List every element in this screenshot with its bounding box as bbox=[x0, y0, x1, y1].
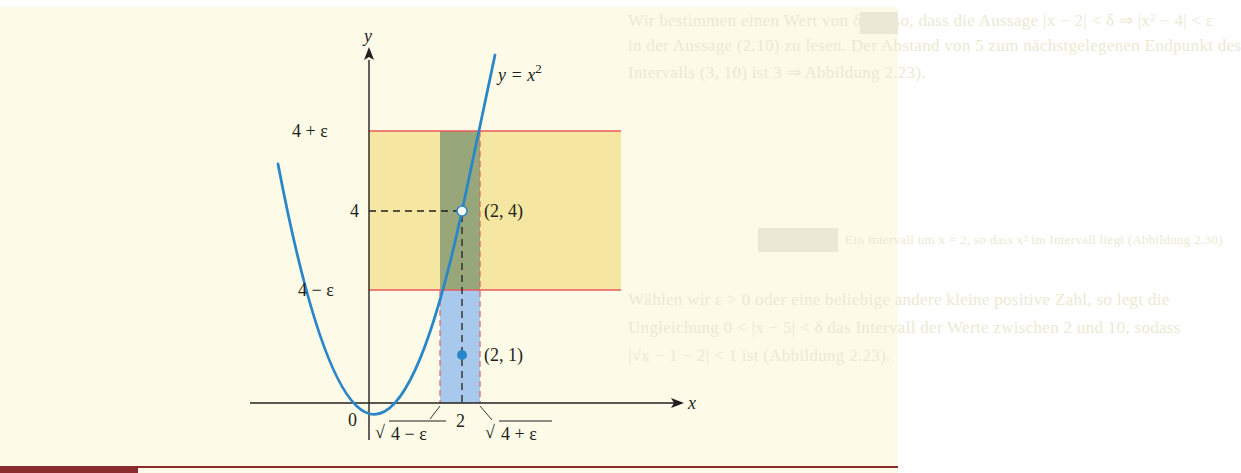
curve-label-exponent: 2 bbox=[535, 61, 542, 76]
y-tick-lower: 4 − ε bbox=[298, 280, 334, 300]
left-tick-leader bbox=[430, 406, 440, 419]
y-tick-middle: 4 bbox=[350, 201, 359, 221]
right-tick-leader bbox=[480, 406, 492, 420]
x-tick-left-radical: √ bbox=[375, 422, 385, 442]
x-tick-right-radicand: 4 + ε bbox=[501, 424, 537, 444]
open-point-2-4 bbox=[457, 206, 467, 216]
origin-label: 0 bbox=[348, 410, 357, 430]
curve-label-base: y = x bbox=[496, 65, 535, 85]
y-tick-upper: 4 + ε bbox=[292, 121, 328, 141]
x-axis-label: x bbox=[687, 393, 696, 413]
y-axis-label: y bbox=[362, 26, 372, 46]
bleed-caption: Ein Intervall um x = 2, so dass x² im In… bbox=[845, 232, 1223, 248]
y-axis-arrow-icon bbox=[364, 47, 374, 60]
x-tick-left-radicand: 4 − ε bbox=[391, 424, 427, 444]
x-tick-right-radical: √ bbox=[485, 422, 495, 442]
filled-point-2-1 bbox=[457, 350, 467, 360]
filled-point-label: (2, 1) bbox=[484, 345, 523, 366]
bottom-accent-tab bbox=[0, 466, 138, 473]
open-point-label: (2, 4) bbox=[484, 201, 523, 222]
x-tick-center: 2 bbox=[456, 411, 465, 431]
curve-label: y = x2 bbox=[496, 61, 542, 85]
